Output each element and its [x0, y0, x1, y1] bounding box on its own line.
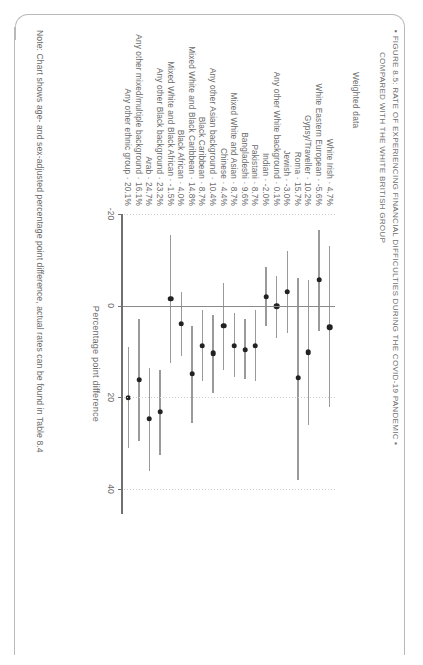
data-point [232, 343, 237, 348]
x-axis-tick-label: 20 [106, 393, 116, 403]
category-label: Black African · 4.0% [176, 130, 186, 206]
data-point [263, 294, 268, 299]
data-point [136, 377, 141, 382]
data-point [157, 409, 162, 414]
figure-title: ▪ FIGURE 8.5: RATE OF EXPERIENCING FINAN… [376, 30, 401, 630]
category-label: White Irish · 4.7% [325, 139, 335, 206]
x-axis-tick-label: -20 [106, 208, 116, 220]
data-point [147, 416, 152, 421]
category-label: Jewish · -3.0% [282, 150, 292, 206]
category-label: Chinese · 4.4% [219, 148, 229, 206]
figure-page: ▪ FIGURE 8.5: RATE OF EXPERIENCING FINAN… [0, 0, 423, 665]
grid-line [123, 214, 335, 215]
x-axis-title: Percentage point difference [91, 214, 101, 514]
figure-note: Note: Chart shows age- and sex-adjusted … [35, 30, 45, 453]
title-line-1: FIGURE 8.5: RATE OF EXPERIENCING FINANCI… [391, 36, 400, 440]
category-label: Any other White background · 0.1% [272, 72, 282, 206]
data-point [221, 323, 226, 328]
x-axis-tick-label: 0 [106, 303, 116, 308]
category-label: Mixed White and Black Caribbean · 14.8% [187, 46, 197, 206]
data-point [253, 343, 258, 348]
category-label: Black Caribbean · 8.7% [198, 117, 208, 206]
title-bullet-right: ▪ [391, 442, 400, 445]
grid-line [123, 489, 335, 490]
category-label: Mixed White and Black African · -1.5% [166, 61, 176, 206]
title-line-2: COMPARED WITH THE WHITE BRITISH GROUP [376, 52, 389, 630]
category-axis-labels: White Irish · 4.7%White Eastern European… [123, 0, 335, 206]
x-axis-tick-label: 40 [106, 484, 116, 494]
data-point [210, 351, 215, 356]
data-point [242, 347, 247, 352]
category-label: White Eastern European · -5.6% [314, 84, 324, 206]
category-label: Any other mixed/multiple background · 16… [134, 34, 144, 206]
card-border-top [404, 27, 405, 655]
grid-line [123, 397, 335, 398]
data-point [316, 277, 321, 282]
data-point [200, 343, 205, 348]
x-axis-line [121, 214, 123, 514]
plot-area [123, 214, 335, 512]
category-label: Any other Asian background · 10.4% [208, 68, 218, 206]
category-label: Arab · 24.7% [145, 156, 155, 206]
category-label: Any other Black background · 23.2% [155, 68, 165, 206]
weighted-data-caption: Weighted data [351, 72, 361, 128]
data-point [306, 350, 311, 355]
data-point [327, 325, 332, 330]
card-border-bottom [14, 27, 15, 655]
title-bullet-left: ▪ [391, 30, 400, 33]
data-point [295, 375, 300, 380]
category-label: Indian · -2.0% [261, 153, 271, 206]
data-point [285, 289, 290, 294]
data-point [179, 321, 184, 326]
data-point [189, 371, 194, 376]
data-point [168, 296, 173, 301]
category-label: Mixed White and Asian · 8.7% [229, 93, 239, 206]
category-label: Any other ethnic group · 20.1% [123, 89, 133, 206]
category-label: Gypsy/Traveller · 10.2% [304, 115, 314, 206]
category-label: Roma · 15.7% [293, 152, 303, 206]
category-label: Bangladeshi · 9.6% [240, 132, 250, 206]
zero-reference-line [123, 306, 335, 307]
category-label: Pakistani · 8.7% [251, 144, 261, 206]
